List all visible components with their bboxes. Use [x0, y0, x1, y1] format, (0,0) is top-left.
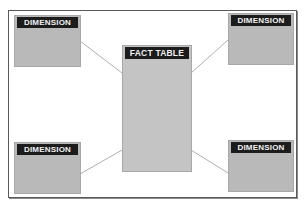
- dimension-header: DIMENSION: [231, 15, 291, 26]
- dimension-header: DIMENSION: [17, 17, 78, 28]
- dimension-header: DIMENSION: [231, 142, 291, 153]
- star-schema-diagram: DIMENSION DIMENSION FACT TABLE DIMENSION…: [0, 0, 304, 205]
- fact-table-header: FACT TABLE: [125, 47, 189, 59]
- dimension-header: DIMENSION: [17, 144, 78, 155]
- dimension-box-bottom-right: DIMENSION: [228, 140, 294, 192]
- fact-table-box: FACT TABLE: [122, 45, 192, 172]
- dimension-box-top-left: DIMENSION: [14, 15, 81, 67]
- dimension-box-top-right: DIMENSION: [228, 13, 294, 65]
- dimension-box-bottom-left: DIMENSION: [14, 142, 81, 194]
